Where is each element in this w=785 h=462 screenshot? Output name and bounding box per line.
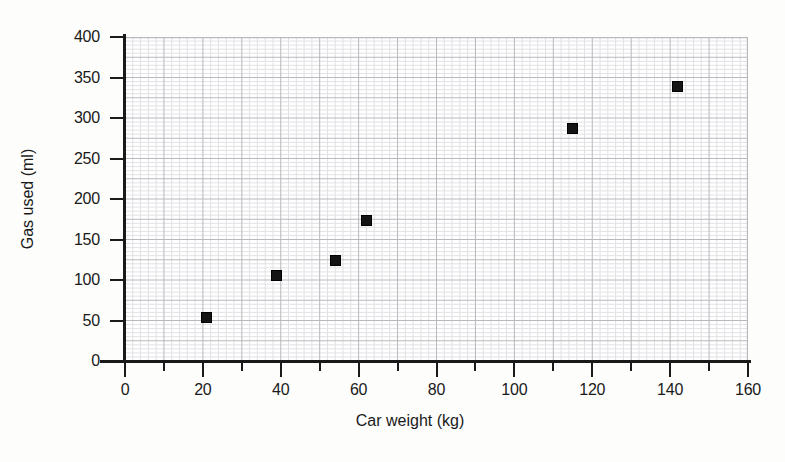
x-axis-tick: [669, 362, 671, 377]
y-axis-tick: [110, 360, 125, 362]
x-axis-tick: [436, 362, 438, 377]
x-axis-tick: [202, 362, 204, 377]
y-axis-tick: [110, 36, 125, 38]
data-point: [330, 255, 341, 266]
y-axis-tick: [110, 239, 125, 241]
y-axis-title: Gas used (ml): [19, 109, 37, 289]
y-axis-tick-label: 300: [48, 110, 100, 126]
x-axis-minor-tick: [163, 362, 165, 371]
x-axis-tick-label: 100: [484, 381, 544, 399]
y-axis-tick: [110, 158, 125, 160]
y-axis-tick-label: 50: [48, 313, 100, 329]
x-axis-minor-tick: [241, 362, 243, 371]
y-axis-tick: [110, 320, 125, 322]
x-axis-minor-tick: [474, 362, 476, 371]
y-axis-tick-label: 350: [48, 70, 100, 86]
x-axis-tick-label: 160: [718, 381, 778, 399]
y-axis-tick: [110, 77, 125, 79]
x-axis-tick-label: 0: [95, 381, 155, 399]
x-axis-tick: [124, 362, 126, 377]
data-point: [567, 123, 578, 134]
y-axis-tick: [110, 279, 125, 281]
x-axis-minor-tick: [319, 362, 321, 371]
x-axis-line: [100, 360, 751, 363]
plot-area: [125, 37, 748, 361]
y-axis-tick: [110, 117, 125, 119]
x-axis-tick: [513, 362, 515, 377]
x-axis-tick: [280, 362, 282, 377]
x-axis-minor-tick: [552, 362, 554, 371]
y-axis-tick-label: 0: [48, 353, 100, 369]
y-axis-tick-label: 200: [48, 191, 100, 207]
data-point: [361, 215, 372, 226]
y-axis-tick-label: 400: [48, 29, 100, 45]
x-axis-tick-label: 120: [562, 381, 622, 399]
data-point: [672, 81, 683, 92]
x-axis-tick-label: 80: [407, 381, 467, 399]
x-axis-minor-tick: [397, 362, 399, 371]
y-axis-tick-label: 100: [48, 272, 100, 288]
y-axis-tick: [110, 198, 125, 200]
x-axis-title: Car weight (kg): [290, 412, 530, 430]
data-point: [201, 312, 212, 323]
scatter-plot-figure: 050100150200250300350400 020406080100120…: [0, 0, 785, 462]
x-axis-tick-label: 140: [640, 381, 700, 399]
x-axis-tick: [747, 362, 749, 377]
x-axis-tick-label: 40: [251, 381, 311, 399]
x-axis-tick-label: 60: [329, 381, 389, 399]
x-axis-minor-tick: [630, 362, 632, 371]
data-point: [271, 270, 282, 281]
y-axis-tick-label: 150: [48, 232, 100, 248]
y-axis-tick-label: 250: [48, 151, 100, 167]
x-axis-tick: [591, 362, 593, 377]
data-points-layer: [125, 37, 748, 361]
x-axis-minor-tick: [708, 362, 710, 371]
x-axis-tick: [358, 362, 360, 377]
x-axis-tick-label: 20: [173, 381, 233, 399]
